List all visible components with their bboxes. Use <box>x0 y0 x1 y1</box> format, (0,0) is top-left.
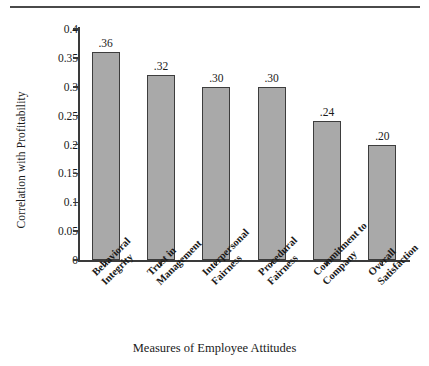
bar <box>313 121 341 260</box>
y-axis-line <box>78 27 80 261</box>
bar-value-label: .24 <box>307 106 347 119</box>
y-axis-tick-label: 0.4 <box>38 23 78 35</box>
y-axis-tick-label: 0.1 <box>38 196 78 208</box>
y-axis-tick-label: 0.3 <box>38 81 78 93</box>
y-axis-tick-label: 0.25 <box>38 110 78 122</box>
bar-value-label: .30 <box>252 72 292 85</box>
y-axis-tick-mark <box>73 144 78 146</box>
y-axis-tick: 0.05 <box>30 225 78 237</box>
bar <box>258 87 286 260</box>
y-axis-tick-mark <box>73 202 78 204</box>
y-axis-tick-mark <box>73 173 78 175</box>
y-axis-tick: 0.1 <box>30 196 78 208</box>
bar-value-label: .36 <box>86 37 126 50</box>
y-axis-tick-label: 0.05 <box>38 225 78 237</box>
bar-value-label: .32 <box>141 60 181 73</box>
bar <box>147 75 175 260</box>
y-axis-tick: 0.15 <box>30 167 78 179</box>
y-axis-tick-label: 0.15 <box>38 167 78 179</box>
y-axis-tick: 0 <box>30 254 78 266</box>
bar-value-label: .20 <box>362 130 402 143</box>
y-axis-tick: 0.3 <box>30 81 78 93</box>
top-divider-rule <box>10 6 420 8</box>
y-axis-tick-mark <box>73 86 78 88</box>
y-axis-tick-mark <box>73 57 78 59</box>
y-axis-tick-mark <box>73 28 78 30</box>
y-axis-tick-mark <box>73 230 78 232</box>
y-axis-tick-label: 0.2 <box>38 139 78 151</box>
y-axis-tick-label: 0 <box>38 254 78 266</box>
y-axis-tick-mark <box>73 115 78 117</box>
y-axis-tick: 0.4 <box>30 23 78 35</box>
y-axis-tick: 0.2 <box>30 139 78 151</box>
y-axis-tick-label: 0.35 <box>38 52 78 64</box>
y-axis-tick: 0.35 <box>30 52 78 64</box>
bar-value-label: .30 <box>196 72 236 85</box>
chart-figure: Correlation with Profitability 00.050.10… <box>0 0 429 366</box>
bar <box>202 87 230 260</box>
y-axis-title: Correlation with Profitability <box>12 44 30 276</box>
bar <box>92 52 120 260</box>
y-axis-tick: 0.25 <box>30 110 78 122</box>
x-axis-title: Measures of Employee Attitudes <box>0 341 429 356</box>
y-axis-tick-mark <box>73 259 78 261</box>
